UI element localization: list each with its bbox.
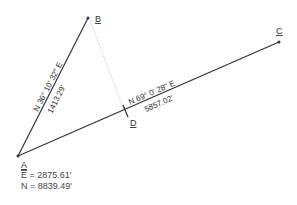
point-c-label: C [276, 26, 283, 36]
easting-a: E = 2875.61' [21, 170, 72, 180]
tick-d [123, 105, 128, 117]
point-b-label: B [95, 14, 101, 24]
line-ab [18, 18, 88, 156]
point-b-marker [87, 17, 90, 20]
point-a-marker [17, 155, 20, 158]
line-bd-dotted [90, 20, 124, 110]
survey-diagram: A B C D N 36° 10' 32" E 1413.29' N 69° 0… [0, 0, 297, 205]
point-c-marker [278, 41, 281, 44]
northing-a: N = 8839.49' [21, 181, 72, 191]
point-d-label: D [130, 118, 137, 128]
point-a-label: A [21, 160, 27, 170]
